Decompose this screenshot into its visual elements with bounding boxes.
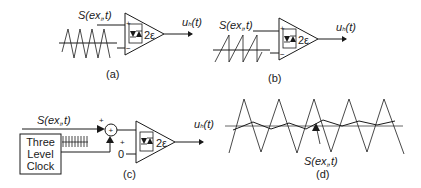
panel-d-signal-label: S(exi,t) [304, 155, 338, 168]
sum-symbol: + [109, 126, 114, 135]
diagram-canvas: S(exi,t) + − 2ε uh(t) (a) S(exi,t) [0, 0, 421, 188]
panel-a-minus: − [126, 44, 131, 53]
panel-c-output-label: uh(t) [194, 118, 214, 130]
panel-b: S(exi,t) + − 2ε uh(t) (b) [213, 18, 356, 84]
panel-b-hysteresis-label: 2ε [298, 34, 309, 46]
panel-a-plus: + [126, 19, 131, 28]
clock-label-line-2: Level [27, 148, 53, 160]
hysteresis-diode-icon [129, 24, 142, 43]
panel-a-input-label: S(exi,t) [78, 9, 112, 22]
panel-d: S(exi,t) (d) [225, 99, 404, 180]
panel-a-caption: (a) [106, 68, 119, 80]
panel-a-hysteresis-label: 2ε [144, 29, 155, 41]
panel-c-caption: (c) [123, 168, 136, 180]
panel-b-output-label: uh(t) [336, 21, 356, 33]
arrow-right-icon [199, 139, 204, 145]
panel-c-hysteresis-label: 2ε [156, 137, 167, 149]
panel-a: S(exi,t) + − 2ε uh(t) (a) [59, 9, 202, 80]
three-level-pulse-train [62, 136, 88, 147]
arrow-right-icon [188, 31, 193, 37]
hysteresis-diode-icon [140, 132, 153, 151]
arrow-up-icon [312, 123, 320, 131]
clock-label-line-1: Three [26, 136, 55, 148]
panel-b-caption: (b) [268, 72, 281, 84]
arrow-up-icon [106, 136, 114, 143]
panel-b-sawtooth-wave [215, 35, 262, 62]
panel-b-plus: + [280, 24, 285, 33]
panel-c-clock-wire [61, 138, 110, 152]
panel-c-input-label: S(exi,t) [37, 114, 71, 127]
panel-d-caption: (d) [316, 168, 329, 180]
arrow-right-icon [342, 36, 347, 42]
panel-b-input-label: S(exi,t) [219, 19, 253, 32]
panel-a-output-label: uh(t) [182, 16, 202, 28]
sum-plus-bottom: + [120, 138, 125, 147]
panel-c: S(exi,t) Three Level Clock + + + [20, 114, 214, 180]
hysteresis-diode-icon [283, 29, 296, 48]
panel-c-zero-label: 0 [118, 148, 124, 160]
arrow-right-icon [97, 125, 105, 133]
panel-b-minus: − [280, 50, 285, 59]
sum-plus-top: + [99, 116, 104, 125]
panel-d-pointer-line [317, 130, 320, 144]
clock-label-line-3: Clock [27, 160, 55, 172]
